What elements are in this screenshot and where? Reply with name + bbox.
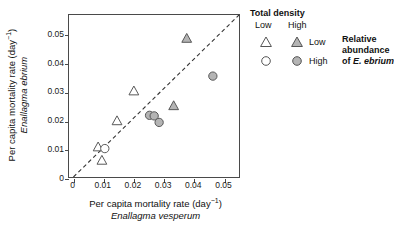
legend-column-high: High — [288, 20, 307, 30]
legend-title: Total density — [250, 8, 393, 18]
x-tick-label-0.01: 0.01 — [89, 181, 117, 190]
x-tick-label-0: 0 — [59, 181, 87, 190]
data-point — [182, 33, 192, 42]
legend-caption-line2: abundance — [342, 45, 390, 55]
y-axis-title: Per capita mortality rate (day−1) Enalla… — [3, 7, 29, 183]
x-axis-species-name: Enallagma vesperum — [111, 210, 200, 221]
legend-column-low: Low — [255, 20, 272, 30]
y-tick-label-0.03: 0.03 — [38, 87, 64, 96]
data-layer — [69, 15, 239, 177]
legend-caption: Relative abundance of E. ebrium — [342, 34, 394, 67]
y-tick-label-0.01: 0.01 — [38, 145, 64, 154]
data-point — [97, 155, 107, 164]
x-tick-label-0.02: 0.02 — [119, 181, 147, 190]
x-axis-title-main: Per capita mortality rate (day — [89, 198, 210, 209]
y-axis-title-main: Per capita mortality rate (day — [6, 40, 17, 161]
data-points-group — [93, 33, 217, 164]
open-triangle-icon — [259, 35, 273, 49]
y-tick-label-0.04: 0.04 — [38, 59, 64, 68]
legend-row-label-high: High — [309, 56, 328, 66]
data-point — [155, 118, 163, 126]
legend-column-headers: Low High — [255, 20, 393, 32]
legend-caption-line3-prefix: of — [342, 56, 353, 66]
legend-row-label-low: Low — [309, 37, 326, 47]
y-tick-0 — [65, 179, 69, 180]
data-point — [112, 116, 122, 125]
data-point — [169, 101, 179, 110]
legend-caption-line1: Relative — [342, 34, 377, 44]
shaded-triangle-icon — [290, 35, 304, 49]
x-axis-title: Per capita mortality rate (day−1) Enalla… — [48, 195, 263, 221]
y-axis-species-name: Enallagma ebrium — [18, 57, 29, 134]
legend-caption-species: E. ebrium — [353, 56, 394, 66]
open-circle-icon — [259, 54, 273, 68]
y-tick-label-0.05: 0.05 — [38, 30, 64, 39]
data-point — [209, 72, 217, 80]
one-to-one-reference-line — [73, 15, 239, 177]
x-tick-label-0.05: 0.05 — [210, 181, 238, 190]
x-tick-label-0.03: 0.03 — [149, 181, 177, 190]
x-axis-title-paren: ) — [219, 198, 222, 209]
plot-area — [68, 14, 240, 178]
y-axis-title-paren: ) — [6, 29, 17, 32]
data-point — [101, 144, 109, 152]
legend: Total density Low High Low — [250, 8, 393, 71]
x-axis-title-exponent: −1 — [211, 197, 219, 204]
y-axis-title-exponent: −1 — [5, 32, 12, 40]
x-tick-label-0.04: 0.04 — [179, 181, 207, 190]
shaded-circle-icon — [290, 54, 304, 68]
y-tick-label-0.02: 0.02 — [38, 116, 64, 125]
data-point — [129, 86, 139, 95]
reference-line-group — [73, 15, 239, 177]
